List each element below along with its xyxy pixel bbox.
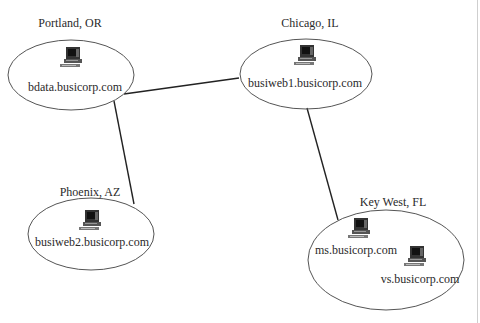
- site-keywest-location: Key West, FL: [360, 195, 426, 209]
- host-busiweb1-label: busiweb1.busicorp.com: [248, 76, 362, 90]
- link-portland-chicago: [124, 78, 239, 94]
- computer-icon: [79, 210, 101, 230]
- site-portland-location: Portland, OR: [38, 16, 101, 30]
- host-ms-label: ms.busicorp.com: [315, 243, 397, 257]
- page-edge-rule: [477, 0, 478, 323]
- site-chicago-location: Chicago, IL: [281, 16, 338, 30]
- computer-icon: [404, 246, 426, 266]
- host-busiweb2-label: busiweb2.busicorp.com: [35, 235, 149, 249]
- site-keywest-ellipse: [308, 210, 464, 310]
- host-bdata-label: bdata.busicorp.com: [28, 80, 122, 94]
- computer-icon: [294, 45, 316, 65]
- site-phoenix-ellipse: [28, 198, 154, 270]
- link-chicago-keywest: [307, 108, 338, 220]
- site-phoenix-location: Phoenix, AZ: [60, 185, 121, 199]
- computer-icon: [348, 218, 370, 238]
- host-vs-label: vs.busicorp.com: [381, 272, 460, 286]
- computer-icon: [60, 47, 82, 67]
